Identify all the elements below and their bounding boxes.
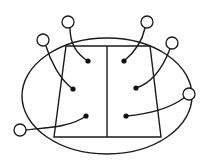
connection-left-bottom xyxy=(14,113,89,136)
filled-dot-icon xyxy=(70,86,75,91)
filled-dot-icon xyxy=(123,113,128,118)
open-circle-node-icon xyxy=(183,88,195,100)
filled-dot-icon xyxy=(121,58,126,63)
connections-group xyxy=(14,16,195,136)
connector-line xyxy=(70,28,88,61)
connector-line xyxy=(124,28,145,61)
connection-right-middle xyxy=(133,37,178,91)
filled-dot-icon xyxy=(83,113,88,118)
filled-dot-icon xyxy=(133,85,138,90)
connection-right-bottom xyxy=(123,88,195,119)
open-circle-node-icon xyxy=(62,16,74,28)
open-circle-node-icon xyxy=(141,16,153,28)
open-circle-node-icon xyxy=(37,34,49,46)
connector-line xyxy=(126,98,184,116)
connection-left-middle xyxy=(37,34,76,92)
open-circle-node-icon xyxy=(14,124,26,136)
open-circle-node-icon xyxy=(166,37,178,49)
filled-dot-icon xyxy=(85,58,90,63)
diagram-canvas xyxy=(0,0,208,166)
